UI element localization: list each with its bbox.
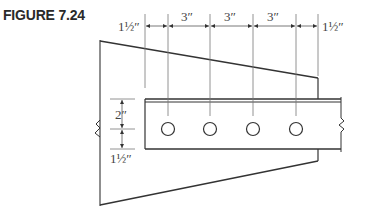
bolt-hole-icon [247,123,260,136]
dim-pitch-3: 3″ [267,9,279,24]
break-line-left-icon [95,120,100,137]
extension-lines [110,14,318,149]
bolt-holes [162,123,303,136]
gusset-plate-diagram: 1½″ 3″ 3″ 3″ 1½″ 2″ 1½″ [0,0,369,220]
dim-pitch-1: 3″ [181,9,193,24]
gusset-top-edge [100,41,318,78]
dim-edge-left: 1½″ [118,19,140,34]
bolt-hole-icon [162,123,175,136]
break-line-right-icon [339,118,344,132]
dim-pitch-2: 3″ [224,9,236,24]
dim-edge-bottom: 1½″ [110,151,132,166]
dim-edge-right: 1½″ [322,19,344,34]
bolt-hole-icon [290,123,303,136]
dim-gage: 2″ [115,107,127,122]
member-plate [145,97,344,152]
dimension-lines [122,26,317,148]
bolt-hole-icon [204,123,217,136]
gusset-bottom-edge [100,161,318,205]
